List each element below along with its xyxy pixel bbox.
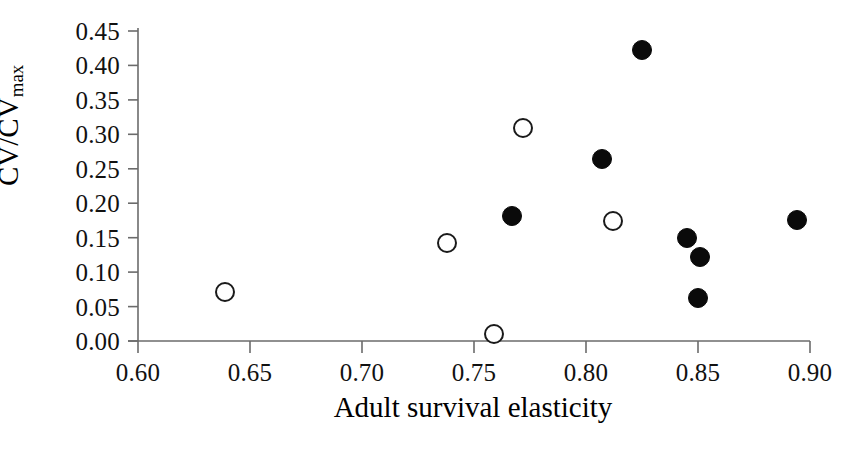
y-tick-label-7: 0.35 <box>30 87 120 112</box>
scatter-plot-figure: 0.00 0.05 0.10 0.15 0.20 0.25 0.30 0.35 … <box>0 0 856 460</box>
x-tick-label-5: 0.85 <box>676 360 721 385</box>
y-tick-label-8: 0.40 <box>30 53 120 78</box>
data-point-filled-circles-4 <box>690 247 710 267</box>
data-point-open-circles-1 <box>437 233 457 253</box>
data-point-filled-circles-5 <box>688 288 708 308</box>
y-tick-label-5: 0.25 <box>30 156 120 181</box>
x-axis-title: Adult survival elasticity <box>334 393 613 422</box>
x-tick-label-1: 0.65 <box>228 360 273 385</box>
y-tick-label-2: 0.10 <box>30 260 120 285</box>
y-tick-label-0: 0.00 <box>30 329 120 354</box>
data-point-open-circles-4 <box>603 211 623 231</box>
x-tick-label-4: 0.80 <box>564 360 609 385</box>
data-point-filled-circles-6 <box>787 210 807 230</box>
data-point-filled-circles-3 <box>677 228 697 248</box>
data-point-filled-circles-0 <box>502 206 522 226</box>
y-axis-title: CV/CVmax <box>0 65 23 186</box>
y-axis-title-subscript: max <box>6 65 27 98</box>
y-tick-label-4: 0.20 <box>30 191 120 216</box>
data-point-open-circles-2 <box>484 324 504 344</box>
data-point-filled-circles-1 <box>592 149 612 169</box>
y-tick-label-3: 0.15 <box>30 225 120 250</box>
x-axis-group <box>128 341 810 353</box>
x-tick-label-3: 0.75 <box>452 360 497 385</box>
y-tick-label-6: 0.30 <box>30 122 120 147</box>
data-point-filled-circles-2 <box>632 40 652 60</box>
data-point-open-circles-0 <box>215 282 235 302</box>
x-tick-label-2: 0.70 <box>340 360 385 385</box>
y-axis-title-main: CV/CV <box>0 97 24 186</box>
x-tick-label-6: 0.90 <box>788 360 833 385</box>
data-point-open-circles-3 <box>513 118 533 138</box>
y-tick-label-1: 0.05 <box>30 294 120 319</box>
y-tick-label-9: 0.45 <box>30 19 120 44</box>
y-axis-group <box>128 28 138 341</box>
x-tick-label-0: 0.60 <box>116 360 161 385</box>
